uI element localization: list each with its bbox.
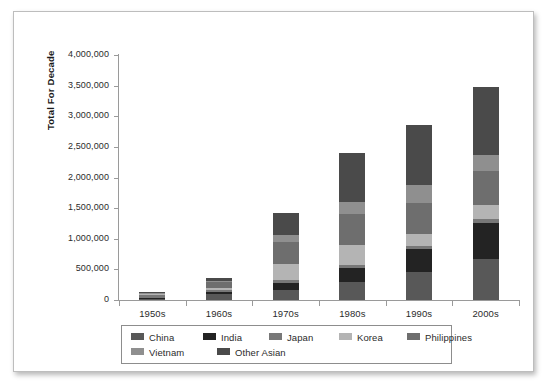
bar-segment-india[interactable] <box>273 283 299 289</box>
legend-item-vietnam[interactable]: Vietnam <box>131 345 217 360</box>
bar-segment-philippines[interactable] <box>206 282 232 288</box>
bar-segment-vietnam[interactable] <box>339 202 365 214</box>
legend-label: China <box>149 331 174 344</box>
bar-segment-japan[interactable] <box>139 295 165 298</box>
bar-segment-china[interactable] <box>206 294 232 300</box>
bar-segment-philippines[interactable] <box>273 242 299 264</box>
y-tick-label: 1,500,000 <box>68 202 109 212</box>
bar-segment-japan[interactable] <box>273 280 299 283</box>
legend-swatch-icon <box>339 333 352 340</box>
legend-swatch-icon <box>217 348 230 355</box>
bar-column[interactable] <box>139 55 165 300</box>
legend-swatch-icon <box>131 348 144 355</box>
y-tick-label: 1,000,000 <box>68 233 109 243</box>
x-tick-mark <box>119 301 120 306</box>
bar-segment-philippines[interactable] <box>339 214 365 245</box>
bar-segment-india[interactable] <box>473 223 499 259</box>
x-tick-label: 1970s <box>252 308 319 319</box>
bar-segment-other-asian[interactable] <box>206 278 232 281</box>
bar-column[interactable] <box>406 55 432 300</box>
plot-area <box>119 55 519 300</box>
bar-segment-vietnam[interactable] <box>473 155 499 172</box>
bar-segment-china[interactable] <box>473 259 499 300</box>
legend-swatch-icon <box>131 333 144 340</box>
legend-item-india[interactable]: India <box>203 330 269 345</box>
bar-segment-philippines[interactable] <box>406 203 432 234</box>
x-tick-label: 1960s <box>186 308 253 319</box>
bar-segment-other-asian[interactable] <box>273 213 299 235</box>
x-tick-label: 1990s <box>386 308 453 319</box>
bar-segment-india[interactable] <box>406 249 432 271</box>
legend-label: Philippines <box>425 331 472 344</box>
bar-segment-korea[interactable] <box>273 264 299 281</box>
legend-item-china[interactable]: China <box>131 330 203 345</box>
bar-column[interactable] <box>206 55 232 300</box>
legend-label: Other Asian <box>235 346 286 359</box>
bar-segment-japan[interactable] <box>406 246 432 250</box>
legend-label: Korea <box>357 331 383 344</box>
legend-row: VietnamOther Asian <box>131 345 451 360</box>
y-tick-label: 3,500,000 <box>68 80 109 90</box>
x-tick-mark <box>186 301 187 306</box>
bar-segment-india[interactable] <box>339 268 365 281</box>
bar-segment-other-asian[interactable] <box>406 125 432 186</box>
x-tick-label: 2000s <box>452 308 519 319</box>
y-axis-title: Total For Decade <box>45 50 56 130</box>
x-tick-mark <box>319 301 320 306</box>
bar-segment-vietnam[interactable] <box>273 235 299 241</box>
y-tick-label: 2,000,000 <box>68 172 109 182</box>
bar-segment-japan[interactable] <box>473 219 499 223</box>
x-tick-mark <box>252 301 253 306</box>
bar-segment-china[interactable] <box>406 272 432 300</box>
bar-segment-korea[interactable] <box>339 245 365 265</box>
bar-segment-japan[interactable] <box>206 290 232 292</box>
bar-segment-other-asian[interactable] <box>473 87 499 154</box>
bar-segment-korea[interactable] <box>206 288 232 290</box>
y-tick-label: 2,500,000 <box>68 141 109 151</box>
bar-segment-china[interactable] <box>339 282 365 300</box>
bar-column[interactable] <box>273 55 299 300</box>
y-tick-label: 500,000 <box>76 263 109 273</box>
legend-row: ChinaIndiaJapanKoreaPhilippines <box>131 330 451 345</box>
x-tick-label: 1980s <box>319 308 386 319</box>
bar-segment-china[interactable] <box>273 290 299 300</box>
y-tick-label: 3,000,000 <box>68 110 109 120</box>
bar-segment-vietnam[interactable] <box>406 185 432 203</box>
bar-segment-korea[interactable] <box>406 234 432 245</box>
legend-label: Japan <box>287 331 313 344</box>
legend-swatch-icon <box>269 333 282 340</box>
bar-segment-philippines[interactable] <box>139 293 165 294</box>
bar-column[interactable] <box>473 55 499 300</box>
y-tick-label: 4,000,000 <box>68 49 109 59</box>
x-tick-mark <box>519 301 520 306</box>
x-tick-label: 1950s <box>119 308 186 319</box>
y-tick-label: 0 <box>104 294 109 304</box>
x-tick-mark <box>452 301 453 306</box>
chart-legend: ChinaIndiaJapanKoreaPhilippinesVietnamOt… <box>121 325 452 364</box>
legend-label: India <box>221 331 242 344</box>
bar-segment-india[interactable] <box>206 292 232 294</box>
legend-item-japan[interactable]: Japan <box>269 330 339 345</box>
bar-segment-china[interactable] <box>139 298 165 300</box>
bar-segment-japan[interactable] <box>339 265 365 268</box>
chart-figure-frame: Total For Decade 0500,0001,000,0001,500,… <box>13 11 534 372</box>
bar-segment-india[interactable] <box>139 298 165 299</box>
bar-segment-korea[interactable] <box>473 205 499 219</box>
legend-swatch-icon <box>203 333 216 340</box>
legend-swatch-icon <box>407 333 420 340</box>
bar-segment-other-asian[interactable] <box>139 292 165 293</box>
legend-label: Vietnam <box>149 346 184 359</box>
legend-item-other-asian[interactable]: Other Asian <box>217 345 307 360</box>
legend-item-philippines[interactable]: Philippines <box>407 330 487 345</box>
bar-segment-other-asian[interactable] <box>339 153 365 202</box>
x-tick-mark <box>386 301 387 306</box>
bar-column[interactable] <box>339 55 365 300</box>
bar-segment-korea[interactable] <box>139 294 165 295</box>
legend-item-korea[interactable]: Korea <box>339 330 407 345</box>
bar-segment-philippines[interactable] <box>473 171 499 205</box>
